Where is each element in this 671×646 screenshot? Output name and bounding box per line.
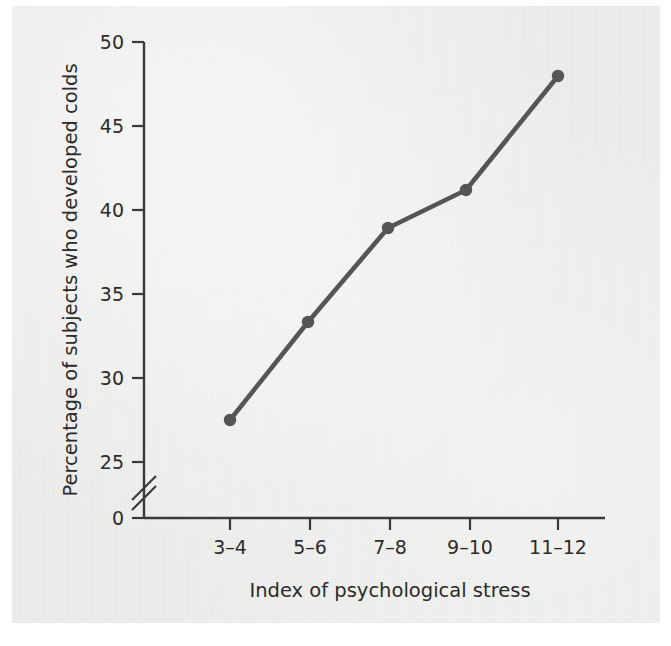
- data-point-markers: [224, 70, 564, 426]
- data-point-1: [302, 316, 314, 328]
- x-tick-label-0: 3–4: [213, 536, 247, 558]
- x-tick-label-2: 7–8: [373, 536, 407, 558]
- y-tick-label-50: 50: [100, 31, 124, 53]
- y-tick-label-0: 0: [112, 507, 124, 529]
- y-axis-ticks: [132, 42, 144, 518]
- line-chart: 50 45 40 35 30 25 0 3–4 5–6 7–8 9–10 11–…: [0, 0, 671, 646]
- data-point-2: [382, 222, 394, 234]
- y-tick-label-40: 40: [100, 199, 124, 221]
- data-point-4: [552, 70, 564, 82]
- data-point-3: [460, 184, 472, 196]
- figure: 50 45 40 35 30 25 0 3–4 5–6 7–8 9–10 11–…: [0, 0, 671, 646]
- y-tick-label-25: 25: [100, 451, 124, 473]
- y-axis-title: Percentage of subjects who developed col…: [59, 63, 82, 496]
- x-tick-label-4: 11–12: [529, 536, 587, 558]
- y-tick-label-35: 35: [100, 283, 124, 305]
- x-axis-title: Index of psychological stress: [249, 579, 530, 602]
- x-axis-ticks: [230, 518, 558, 530]
- y-tick-label-30: 30: [100, 367, 124, 389]
- y-tick-label-45: 45: [100, 115, 124, 137]
- x-tick-label-3: 9–10: [447, 536, 493, 558]
- x-tick-label-1: 5–6: [293, 536, 327, 558]
- data-point-0: [224, 414, 236, 426]
- data-line-series-0: [230, 76, 558, 420]
